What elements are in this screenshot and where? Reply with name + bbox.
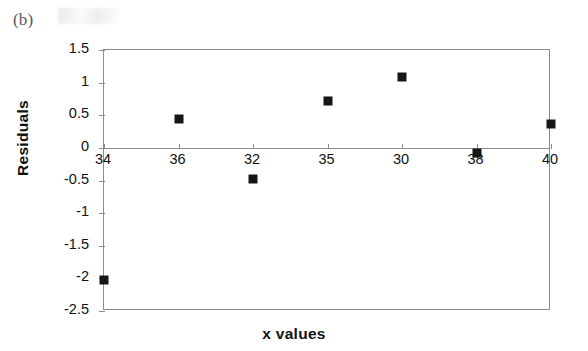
x-tick — [402, 144, 403, 149]
x-tick-label: 38 — [467, 151, 483, 167]
x-tick — [179, 144, 180, 149]
y-tick-label: 1.5 — [0, 40, 89, 56]
y-tick — [99, 246, 105, 247]
x-tick-label: 40 — [542, 151, 558, 167]
x-tick — [551, 144, 552, 149]
data-point — [174, 114, 183, 123]
x-tick-label: 34 — [95, 151, 111, 167]
y-tick-label: 1 — [0, 73, 89, 89]
y-tick-label: -2.5 — [0, 301, 89, 317]
zero-baseline — [104, 148, 549, 149]
y-tick — [99, 181, 105, 182]
y-tick — [99, 83, 105, 84]
y-tick-label: -0.5 — [0, 171, 89, 187]
x-tick — [328, 144, 329, 149]
x-tick-label: 35 — [318, 151, 334, 167]
y-tick-label: 0 — [0, 138, 89, 154]
y-tick-label: -1.5 — [0, 236, 89, 252]
y-tick — [99, 50, 105, 51]
x-tick — [253, 144, 254, 149]
x-tick-label: 30 — [393, 151, 409, 167]
y-tick-label: -2 — [0, 268, 89, 284]
data-point — [249, 174, 258, 183]
data-point — [100, 275, 109, 284]
x-axis-title: x values — [0, 325, 588, 343]
y-tick — [99, 115, 105, 116]
y-tick-label: -1 — [0, 203, 89, 219]
plot-area — [103, 49, 550, 310]
y-tick — [99, 213, 105, 214]
y-tick-label: 0.5 — [0, 105, 89, 121]
x-tick-label: 36 — [169, 151, 185, 167]
data-point — [547, 120, 556, 129]
y-tick — [99, 311, 105, 312]
data-point — [323, 96, 332, 105]
x-tick-label: 32 — [244, 151, 260, 167]
x-tick — [104, 144, 105, 149]
panel-label: (b) — [13, 10, 33, 30]
data-point — [398, 72, 407, 81]
scan-artifact — [58, 8, 120, 24]
